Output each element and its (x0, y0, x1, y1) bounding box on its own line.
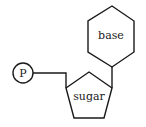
nucleotide-diagram: P sugar base (0, 0, 146, 127)
base-group: base (88, 6, 134, 67)
phosphate-label: P (19, 67, 27, 80)
phosphate-sugar-bond (33, 73, 66, 88)
sugar-group: sugar (66, 72, 112, 118)
sugar-label: sugar (73, 90, 105, 103)
base-label: base (98, 29, 124, 42)
phosphate-group: P (13, 63, 33, 83)
